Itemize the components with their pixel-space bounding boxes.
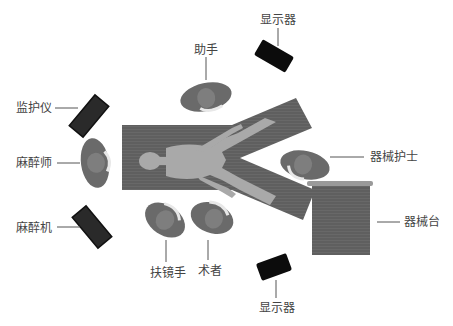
label-display-bottom: 显示器 <box>259 301 295 315</box>
anesthesiologist-figure <box>78 136 113 189</box>
instrument-table-icon <box>307 181 373 255</box>
label-display-top: 显示器 <box>260 13 296 27</box>
label-monitor: 监护仪 <box>16 101 52 115</box>
label-surgeon: 术者 <box>198 264 222 278</box>
scope-holder-figure <box>138 195 191 245</box>
surgeon-figure <box>186 196 238 239</box>
label-scrub-nurse: 器械护士 <box>370 150 418 164</box>
label-scope-holder: 扶镜手 <box>150 266 186 280</box>
operating-room-diagram: 显示器 助手 监护仪 麻醉师 器械护士 麻醉机 器械台 扶镜手 术者 显示器 <box>0 0 453 326</box>
display-bottom-icon <box>256 253 292 281</box>
display-top-icon <box>254 39 294 73</box>
monitor-icon <box>69 95 109 137</box>
assistant-figure <box>178 78 235 116</box>
label-assistant: 助手 <box>194 43 218 57</box>
label-anesthesia-machine: 麻醉机 <box>16 221 52 235</box>
label-anesthesiologist: 麻醉师 <box>16 156 52 170</box>
label-instrument-table: 器械台 <box>404 215 440 229</box>
